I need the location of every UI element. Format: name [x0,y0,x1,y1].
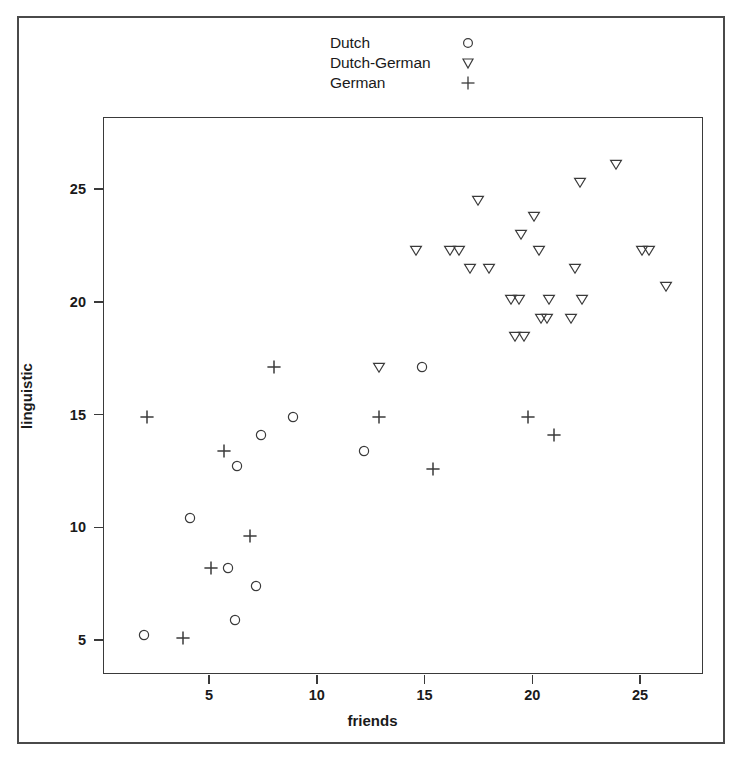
y-tick-label: 20 [70,294,86,310]
circle-icon [458,33,478,53]
y-tick [94,527,103,529]
legend-label-german: German [330,73,385,93]
plot-area [103,117,703,674]
x-tick-label: 15 [416,687,432,703]
x-axis-label: friends [0,712,745,729]
x-tick-label: 5 [205,687,213,703]
legend-label-dutch-german: Dutch-German [330,53,430,73]
legend-item-dutch-german: Dutch-German [330,53,490,73]
legend-item-dutch: Dutch [330,33,490,53]
x-tick-label: 20 [524,687,540,703]
y-tick [94,639,103,641]
x-tick-label: 25 [632,687,648,703]
y-tick-label: 25 [70,181,86,197]
x-tick-label: 10 [309,687,325,703]
legend-item-german: German [330,73,490,93]
legend-label-dutch: Dutch [330,33,370,53]
x-tick [424,675,426,684]
legend: Dutch Dutch-German German [330,33,490,93]
scatter-plot-figure: Dutch Dutch-German German [0,0,745,770]
x-tick [208,675,210,684]
triangle-down-icon [458,53,478,73]
x-tick [532,675,534,684]
y-tick-label: 10 [70,519,86,535]
y-tick [94,414,103,416]
y-axis-label: linguistic [18,363,35,429]
y-tick [94,301,103,303]
x-tick [316,675,318,684]
y-tick-label: 15 [70,407,86,423]
y-tick [94,188,103,190]
plus-icon [458,73,478,93]
x-tick [639,675,641,684]
y-tick-label: 5 [78,632,86,648]
